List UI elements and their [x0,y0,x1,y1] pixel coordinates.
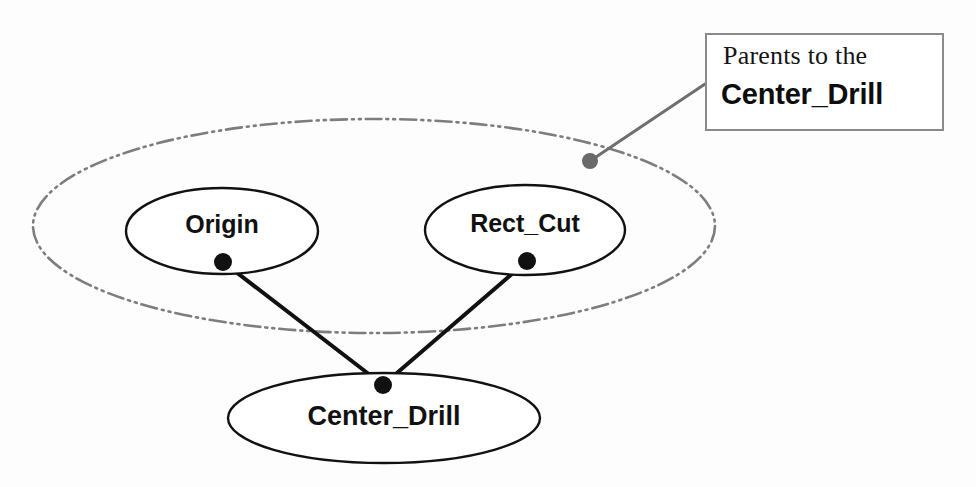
node-rect-cut-label: Rect_Cut [470,209,580,237]
callout-line-1: Parents to the [723,41,867,71]
diagram-canvas: Origin Rect_Cut Center_Drill Parents to … [0,0,976,487]
callout-box: Parents to the Center_Drill [705,33,944,131]
port-dot-center-drill [374,376,392,394]
edge-rect-cut-to-center-drill [383,261,527,385]
edge-origin-to-center-drill [223,262,383,385]
callout-anchor-dot [582,153,598,169]
node-center-drill-label: Center_Drill [307,401,460,431]
callout-leader-line [596,84,705,157]
callout-line-2: Center_Drill [721,78,883,111]
port-dot-rect-cut [518,252,536,270]
port-dot-origin [214,253,232,271]
node-origin-label: Origin [185,210,259,238]
